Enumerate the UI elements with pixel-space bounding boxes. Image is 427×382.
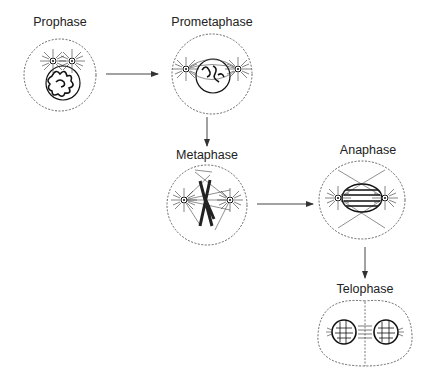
cell-metaphase bbox=[167, 165, 247, 245]
cell-telophase bbox=[318, 300, 412, 366]
cell-prophase bbox=[24, 39, 96, 111]
mitosis-diagram bbox=[0, 0, 427, 382]
cell-prometaphase bbox=[172, 34, 252, 114]
cell-anaphase bbox=[319, 161, 405, 239]
arrows bbox=[106, 74, 365, 278]
